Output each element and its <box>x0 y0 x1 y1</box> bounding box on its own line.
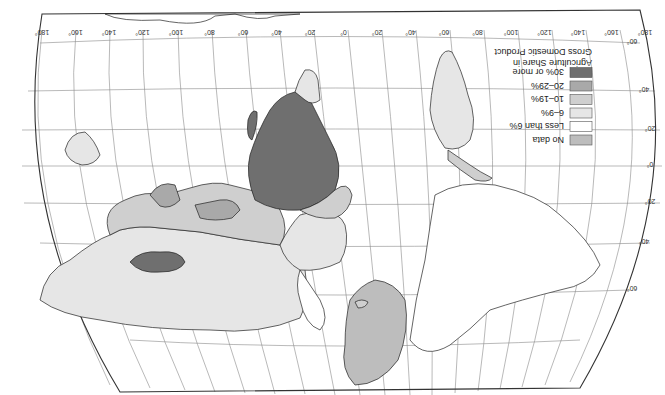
longitude-label: 140° <box>102 29 117 36</box>
latitude-label: 20° <box>645 125 656 132</box>
latitude-labels: 60°40°20°0°20°40°60° <box>627 38 656 292</box>
madagascar <box>248 111 258 140</box>
longitude-label: 160° <box>604 29 619 36</box>
longitude-label: 100° <box>169 29 184 36</box>
legend-swatch <box>570 108 592 118</box>
latitude-label: 60° <box>627 285 638 292</box>
legend-swatch <box>570 135 592 145</box>
longitude-label: 140° <box>571 29 586 36</box>
longitude-label: 120° <box>537 29 552 36</box>
legend-label: Less than 6% <box>509 121 564 131</box>
longitude-label: 180° <box>35 29 50 36</box>
antarctica <box>105 14 300 23</box>
legend-label: 6–9% <box>541 108 564 118</box>
longitude-label: 20° <box>372 29 383 36</box>
legend: No dataLess than 6%6–9%10–19%20–29%30% o… <box>494 47 592 145</box>
region-scandinavia <box>298 270 326 330</box>
region-africa <box>248 92 339 210</box>
region-australia <box>65 132 100 165</box>
latitude-label: 40° <box>639 86 650 93</box>
longitude-label: 40° <box>271 29 282 36</box>
region-europe <box>280 210 347 270</box>
longitude-labels: 180°160°140°120°100°80°60°40°20°0°20°40°… <box>35 29 653 36</box>
legend-swatch <box>570 68 592 78</box>
latitude-label: 40° <box>639 238 650 245</box>
map-canvas: 180°160°140°120°100°80°60°40°20°0°20°40°… <box>0 0 665 395</box>
longitude-label: 20° <box>305 29 316 36</box>
longitude-label: 0° <box>340 29 347 36</box>
legend-swatch <box>570 95 592 105</box>
latitude-label: 0° <box>646 161 653 168</box>
longitude-label: 80° <box>472 29 483 36</box>
region-central-america <box>448 150 492 181</box>
region-greenland <box>344 280 407 385</box>
region-south-america <box>430 51 474 149</box>
longitude-label: 60° <box>439 29 450 36</box>
legend-title-line1: Agriculture Share in <box>513 58 592 68</box>
legend-swatch <box>570 81 592 91</box>
legend-label: 10–19% <box>531 94 564 104</box>
legend-title-line2: Gross Domestic Product <box>494 47 592 57</box>
latitude-label: 20° <box>645 198 656 205</box>
longitude-label: 120° <box>135 29 150 36</box>
longitude-label: 80° <box>204 29 215 36</box>
longitude-label: 100° <box>504 29 519 36</box>
region-north-america <box>410 184 600 352</box>
legend-swatch <box>570 122 592 132</box>
legend-label: 20–29% <box>531 81 564 91</box>
world-map: 180°160°140°120°100°80°60°40°20°0°20°40°… <box>0 0 665 395</box>
latitude-label: 60° <box>627 38 638 45</box>
longitude-label: 60° <box>238 29 249 36</box>
longitude-label: 160° <box>68 29 83 36</box>
longitude-label: 180° <box>638 29 653 36</box>
legend-label: No data <box>532 135 564 145</box>
longitude-label: 40° <box>405 29 416 36</box>
